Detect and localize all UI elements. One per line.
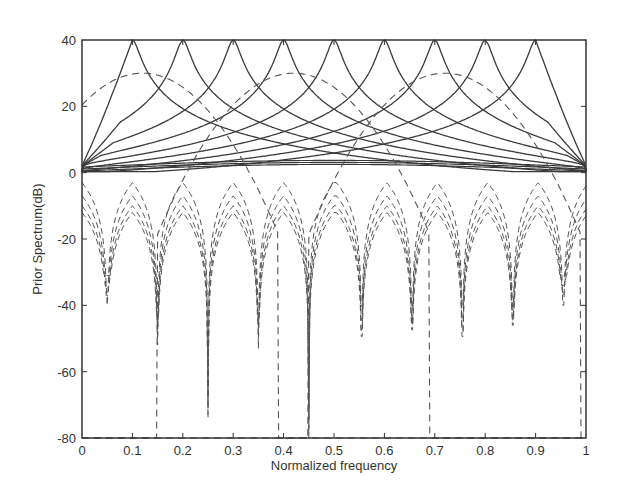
solid-peak-curve bbox=[82, 40, 586, 172]
plot-frame bbox=[82, 40, 586, 438]
y-tick-label: -60 bbox=[57, 365, 76, 380]
x-tick-label: 1 bbox=[582, 443, 589, 458]
x-tick-label: 0.1 bbox=[123, 443, 141, 458]
x-tick-label: 0.9 bbox=[527, 443, 545, 458]
x-tick-label: 0.5 bbox=[325, 443, 343, 458]
x-tick-label: 0.2 bbox=[174, 443, 192, 458]
dashed-lobe-curve bbox=[82, 196, 586, 428]
y-tick-label: 40 bbox=[62, 33, 76, 48]
solid-peak-curve bbox=[82, 40, 586, 172]
chart: 00.10.20.30.40.50.60.70.80.91 40200-20-4… bbox=[0, 0, 620, 502]
x-tick-label: 0.4 bbox=[275, 443, 293, 458]
solid-peak-curve bbox=[82, 40, 586, 172]
x-tick-label: 0.7 bbox=[426, 443, 444, 458]
y-axis-label: Prior Spectrum(dB) bbox=[30, 183, 45, 294]
y-tick-label: 0 bbox=[69, 166, 76, 181]
solid-peak-curve bbox=[82, 40, 586, 172]
solid-peak-curve bbox=[82, 40, 586, 172]
plot-curves bbox=[82, 40, 586, 438]
solid-peak-curve bbox=[82, 40, 586, 172]
y-tick-label: -40 bbox=[57, 298, 76, 313]
x-axis-ticks: 00.10.20.30.40.50.60.70.80.91 bbox=[78, 40, 589, 458]
x-tick-label: 0.6 bbox=[375, 443, 393, 458]
solid-peak-curve bbox=[82, 40, 586, 172]
x-axis-label: Normalized frequency bbox=[271, 458, 398, 473]
x-tick-label: 0 bbox=[78, 443, 85, 458]
solid-peak-curve bbox=[82, 40, 586, 172]
x-tick-label: 0.8 bbox=[476, 443, 494, 458]
solid-baseline-curve bbox=[82, 164, 586, 171]
dashed-lobe-curve bbox=[82, 206, 586, 418]
dashed-lobe-curve bbox=[82, 183, 586, 438]
y-tick-label: 20 bbox=[62, 99, 76, 114]
x-tick-label: 0.3 bbox=[224, 443, 242, 458]
y-tick-label: -80 bbox=[57, 431, 76, 446]
solid-peak-curve bbox=[82, 40, 586, 172]
y-tick-label: -20 bbox=[57, 232, 76, 247]
